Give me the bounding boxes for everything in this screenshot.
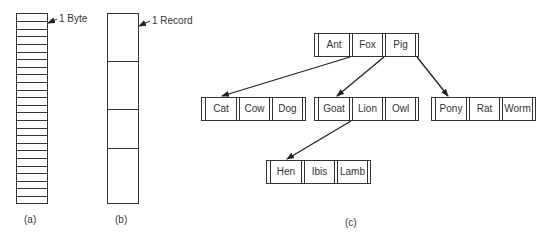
tree-key: Ant	[319, 33, 349, 56]
byte-annotation: 1 Byte	[59, 13, 87, 24]
record-column	[108, 14, 139, 204]
record-annotation: 1 Record	[152, 15, 193, 26]
tree-key: Pony	[436, 97, 466, 120]
tree-key: Lamb	[338, 160, 367, 183]
tree-key: Hen	[271, 160, 301, 183]
tree-edge-ant-fox-to-cat	[222, 57, 350, 96]
figure-label-c: (c)	[345, 217, 357, 228]
tree-edge-pig-to-pony	[417, 57, 448, 96]
figure-label-b: (b)	[115, 214, 127, 225]
tree-key: Rat	[470, 97, 499, 120]
tree-key: Ibis	[305, 160, 334, 183]
diagram-canvas	[0, 0, 549, 241]
tree-edge-goat-lion-to-hen	[287, 121, 351, 159]
figure-label-a: (a)	[24, 214, 36, 225]
tree-key: Worm	[503, 97, 532, 120]
byte-annotation-leader	[48, 19, 57, 23]
tree-key: Lion	[353, 97, 382, 120]
tree-key: Pig	[386, 33, 415, 56]
tree-key: Goat	[319, 97, 349, 120]
tree-key: Fox	[353, 33, 382, 56]
tree-key: Dog	[273, 97, 302, 120]
tree-edge-fox-pig-to-goat	[337, 57, 384, 96]
byte-column	[17, 14, 48, 204]
tree-key: Owl	[386, 97, 415, 120]
tree-key: Cow	[240, 97, 269, 120]
record-annotation-leader	[139, 21, 150, 26]
tree-key: Cat	[206, 97, 236, 120]
